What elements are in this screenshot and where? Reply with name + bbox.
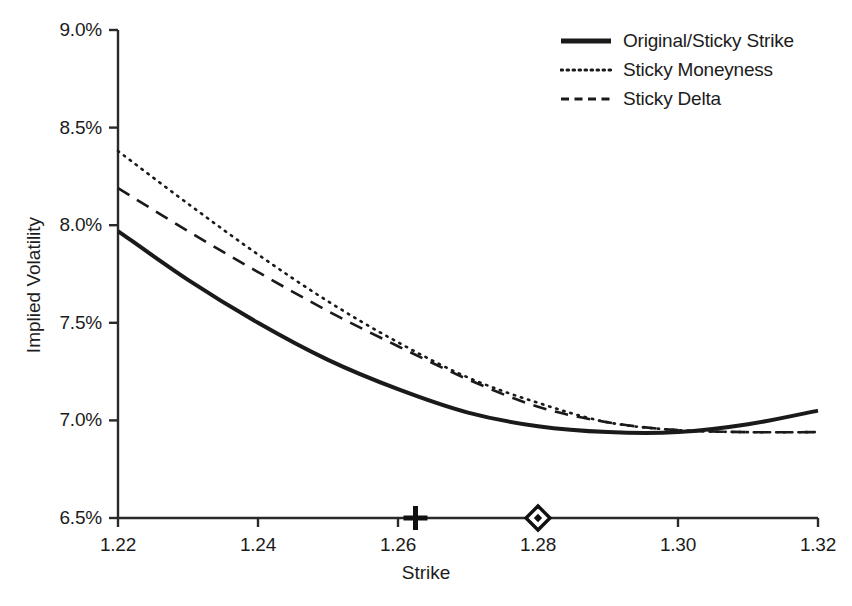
legend-item: Sticky Delta bbox=[560, 84, 846, 113]
y-axis-tick-label: 7.0% bbox=[0, 409, 102, 431]
legend-line-sample-dotted bbox=[560, 63, 612, 77]
y-axis-tick-label: 8.5% bbox=[0, 117, 102, 139]
series-line-sticky-moneyness bbox=[118, 151, 818, 432]
x-axis-tick-label: 1.30 bbox=[660, 534, 696, 556]
x-axis-tick-label: 1.26 bbox=[380, 534, 416, 556]
legend-item-label: Original/Sticky Strike bbox=[623, 30, 794, 52]
plus-marker bbox=[404, 506, 428, 530]
y-axis-tick-label: 9.0% bbox=[0, 19, 102, 41]
y-axis-tick-label: 6.5% bbox=[0, 507, 102, 529]
y-axis-tick-label: 7.5% bbox=[0, 312, 102, 334]
legend-line-sample-dashed bbox=[560, 92, 612, 106]
x-axis-tick-label: 1.28 bbox=[520, 534, 556, 556]
legend-item: Sticky Moneyness bbox=[560, 55, 846, 84]
series-line-original-sticky-strike bbox=[118, 231, 818, 433]
legend-line-sample-solid bbox=[560, 34, 612, 48]
y-axis-title: Implied Volatility bbox=[23, 185, 45, 385]
x-axis-title: Strike bbox=[0, 562, 852, 584]
legend-item-label: Sticky Moneyness bbox=[623, 59, 773, 81]
x-axis-tick-label: 1.24 bbox=[240, 534, 276, 556]
y-axis-tick-label: 8.0% bbox=[0, 214, 102, 236]
series-line-sticky-delta bbox=[118, 188, 818, 432]
x-axis-tick-label: 1.22 bbox=[100, 534, 136, 556]
implied-volatility-chart: 6.5%7.0%7.5%8.0%8.5%9.0% 1.221.241.261.2… bbox=[0, 0, 852, 606]
data-series bbox=[118, 151, 818, 433]
legend-item-label: Sticky Delta bbox=[623, 88, 721, 110]
x-axis-tick-label: 1.32 bbox=[800, 534, 836, 556]
legend-item: Original/Sticky Strike bbox=[560, 26, 846, 55]
chart-legend: Original/Sticky StrikeSticky MoneynessSt… bbox=[560, 26, 846, 113]
